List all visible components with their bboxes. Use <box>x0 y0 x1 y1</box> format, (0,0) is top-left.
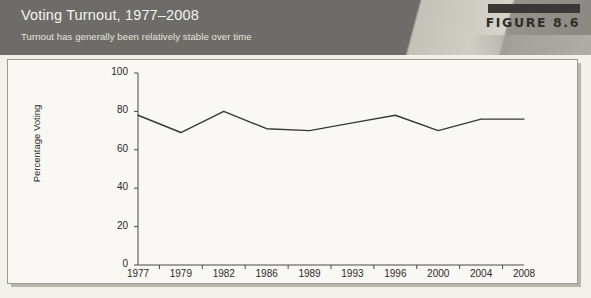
figure-subtitle: Turnout has generally been relatively st… <box>21 31 252 42</box>
panel-shadow-right <box>578 63 581 287</box>
figure-number-label: FIGURE 8.6 <box>486 15 580 30</box>
figure-title: Voting Turnout, 1977–2008 <box>21 7 199 23</box>
figure-badge-bar <box>488 4 580 13</box>
chart-panel <box>7 59 578 284</box>
panel-shadow-bottom <box>11 284 581 287</box>
figure-header-band: Voting Turnout, 1977–2008 Turnout has ge… <box>0 0 591 55</box>
header-diagonal-wedge-secondary <box>471 35 591 55</box>
figure-container: Voting Turnout, 1977–2008 Turnout has ge… <box>0 0 591 298</box>
